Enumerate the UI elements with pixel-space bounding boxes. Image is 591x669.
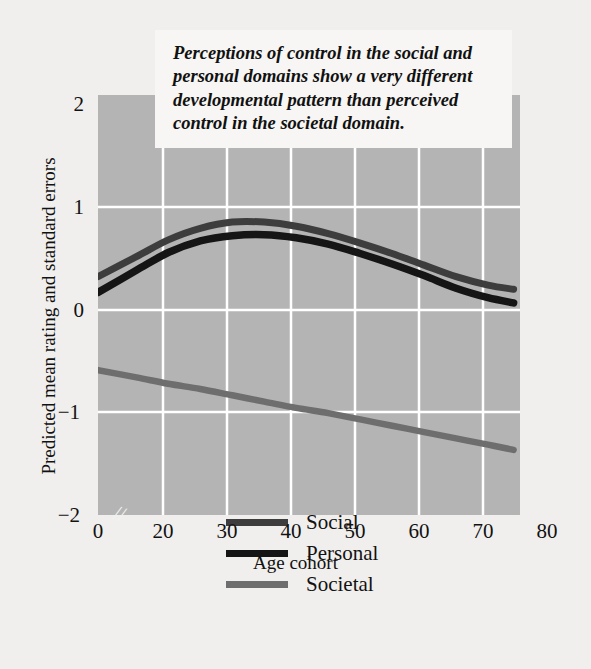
xtick-label-70: 70 <box>460 521 506 542</box>
annotation-callout: Perceptions of control in the social and… <box>155 30 512 148</box>
chart-figure: Social Personal Societal 2 1 0 −1 −2 0 2… <box>0 0 591 669</box>
xtick-label-50: 50 <box>332 521 378 542</box>
legend-label-societal: Societal <box>306 574 374 595</box>
data-series <box>98 95 520 515</box>
annotation-text: Perceptions of control in the social and… <box>173 42 498 135</box>
y-axis-title: Predicted mean rating and standard error… <box>38 121 60 511</box>
xtick-label-20: 20 <box>140 521 186 542</box>
xtick-label-40: 40 <box>268 521 314 542</box>
ytick-label-2: 2 <box>44 94 84 115</box>
xtick-label-60: 60 <box>396 521 442 542</box>
xtick-label-30: 30 <box>204 521 250 542</box>
legend-swatch-societal <box>226 581 288 588</box>
xtick-label-80: 80 <box>524 521 570 542</box>
plot-area: Social Personal Societal <box>98 95 520 515</box>
x-axis-title: Age cohort <box>0 552 591 574</box>
series-line-societal <box>98 370 514 450</box>
